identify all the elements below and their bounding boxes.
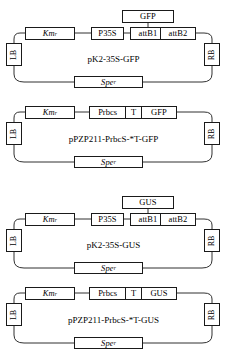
left-border-box-lb: LB <box>6 229 22 252</box>
left-border-label: LB <box>10 128 18 138</box>
plasmid-name-label: pPZP211-PrbcS-*T-GUS <box>0 315 227 325</box>
marker-gene-label: Km <box>43 29 55 38</box>
construct-ppzp211-prbcs-t-gfp: Kmr Prbcs T GFP LB RB pPZP211-PrbcS-*T-G… <box>0 96 227 182</box>
expression-cassette: Prbcs T GUS <box>89 287 177 300</box>
left-border-label: LB <box>10 49 18 59</box>
left-border-box-lb: LB <box>6 122 22 145</box>
marker-box-km: Kmr <box>25 106 75 119</box>
construct-ppzp211-prbcs-t-gus: Kmr Prbcs T GUS LB RB pPZP211-PrbcS-*T-G… <box>0 277 227 363</box>
right-border-box-rb: RB <box>204 122 220 145</box>
backbone-marker-box-spe: Sper <box>74 337 143 349</box>
cassette-cell-transit-peptide: T <box>126 107 142 118</box>
marker-box-km: Kmr <box>25 27 75 40</box>
right-border-box-rb: RB <box>204 303 220 326</box>
backbone-marker-box-spe: Sper <box>74 156 143 168</box>
marker-gene-label: Km <box>43 215 55 224</box>
element-box-p35s: P35S <box>91 213 124 226</box>
element-box-attb2: attB2 <box>160 27 196 40</box>
marker-box-km: Kmr <box>25 213 75 226</box>
plasmid-name-label: pK2-35S-GFP <box>0 54 227 64</box>
element-box-attb2: attB2 <box>160 213 196 226</box>
cassette-cell-transit-peptide: T <box>126 288 142 299</box>
element-box-p35s: P35S <box>91 27 124 40</box>
cassette-cell-reporter: GFP <box>142 107 176 118</box>
cassette-cell-reporter: GUS <box>142 288 176 299</box>
right-border-label: RB <box>208 49 216 60</box>
backbone-marker-gene-label: Spe <box>101 339 114 348</box>
left-border-box-lb: LB <box>6 303 22 326</box>
insert-box-gfp: GFP <box>122 10 174 23</box>
backbone-marker-box-spe: Sper <box>74 262 143 274</box>
marker-box-km: Kmr <box>25 287 75 300</box>
backbone-marker-gene-label: Spe <box>101 264 114 273</box>
right-border-label: RB <box>208 128 216 139</box>
cassette-cell-promoter: Prbcs <box>90 288 126 299</box>
left-border-label: LB <box>10 309 18 319</box>
backbone-marker-box-spe: Sper <box>74 76 143 88</box>
right-border-label: RB <box>208 309 216 320</box>
expression-cassette: Prbcs T GFP <box>89 106 177 119</box>
plasmid-name-label: pPZP211-PrbcS-*T-GFP <box>0 134 227 144</box>
construct-pk2-35s-gus: GUS Kmr P35S attB1 attB2 LB RB pK2-35S-G… <box>0 186 227 281</box>
right-border-label: RB <box>208 235 216 246</box>
plasmid-name-label: pK2-35S-GUS <box>0 240 227 250</box>
marker-gene-label: Km <box>43 108 55 117</box>
right-border-box-rb: RB <box>204 229 220 252</box>
insert-box-gus: GUS <box>122 196 174 209</box>
construct-pk2-35s-gfp: GFP Kmr P35S attB1 attB2 LB RB pK2-35S-G… <box>0 0 227 95</box>
plasmid-construct-figure: GFP Kmr P35S attB1 attB2 LB RB pK2-35S-G… <box>0 0 227 363</box>
backbone-marker-gene-label: Spe <box>101 158 114 167</box>
left-border-box-lb: LB <box>6 43 22 66</box>
right-border-box-rb: RB <box>204 43 220 66</box>
backbone-marker-gene-label: Spe <box>101 78 114 87</box>
left-border-label: LB <box>10 235 18 245</box>
marker-gene-label: Km <box>43 289 55 298</box>
cassette-cell-promoter: Prbcs <box>90 107 126 118</box>
